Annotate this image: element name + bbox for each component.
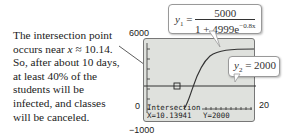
y2-pointer: [0, 0, 294, 140]
